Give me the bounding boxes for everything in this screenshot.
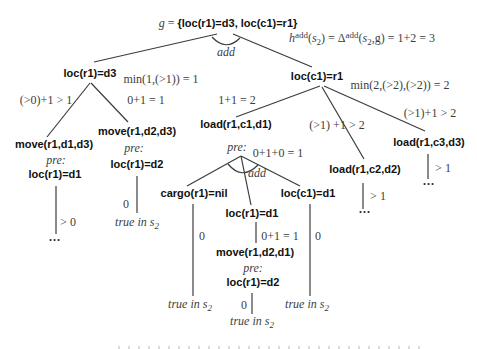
root-goal-node: g = {loc(r1)=d3, loc(c1)=r1}	[159, 14, 298, 31]
edge-cost-load-c2: (>1) +1 > 2	[309, 119, 364, 132]
and-arc-label-root: add	[217, 46, 235, 59]
pre-label-move-d1-d3: pre:	[46, 154, 66, 167]
node-load-r1-c3-d3: load(r1,c3,d3)	[393, 137, 465, 149]
edge-cost-load-c1: 1+1 = 2	[218, 94, 256, 107]
pre-label-load-c1: pre:	[227, 141, 247, 154]
node-load-r1-c2-d2: load(r1,c2,d2)	[329, 164, 401, 176]
edge-cost-move-d1-d3: (>0)+1 > 1	[20, 94, 72, 107]
ellipsis-left: ...	[49, 231, 61, 244]
pre-label-move-d2-d3: pre:	[124, 142, 144, 155]
edge-cost-load-c3: (>1)+1 > 2	[404, 107, 456, 120]
node-loc-r1-d1-left: loc(r1)=d1	[29, 169, 82, 181]
node-loc-c1-d1: loc(c1)=d1	[281, 188, 336, 200]
node-cargo-r1-nil: cargo(r1)=nil	[161, 188, 228, 200]
leaf-true-cargo: true in s2	[168, 298, 212, 313]
edge-cost-move-d2-d1: 0+1 = 1	[261, 230, 299, 243]
cost-zero-move-d2-d3: 0	[123, 198, 129, 211]
edge-locr1d3-to-move-d1-d3	[47, 83, 90, 137]
leaf-true-move-d2-d3: true in s2	[115, 216, 159, 231]
leaf-true-loc-c1-d1: true in s2	[285, 298, 329, 313]
pre-cost-load-c1: 0+1+0 = 1	[253, 147, 303, 160]
min-cost-loc-c1-r1: min(2,(>2),(>2)) = 2	[351, 79, 450, 92]
node-loc-r1-d2-mid: loc(r1)=d2	[111, 159, 164, 171]
node-loc-r1-d2-center: loc(r1)=d2	[227, 277, 280, 289]
edge-pre-to-locr1d1	[241, 156, 251, 205]
ellipsis-load-c3: ...	[423, 175, 435, 188]
min-cost-loc-r1-d3: min(1,(>1)) = 1	[123, 73, 198, 86]
node-load-r1-c1-d1: load(r1,c1,d1)	[200, 119, 272, 131]
ellipsis-load-c2: ...	[359, 203, 371, 216]
goal-set: {loc(r1)=d3, loc(c1)=r1}	[177, 17, 297, 29]
edge-locr1d3-to-move-d2-d3	[91, 83, 128, 122]
cost-zero-cargo: 0	[199, 230, 205, 243]
cost-zero-move-d2-d1: 0	[241, 299, 247, 312]
cost-gt1-load-c2: > 1	[370, 190, 386, 203]
edge-cost-move-d2-d3: 0+1 = 1	[127, 94, 165, 107]
hadd-formula: hadd(s2) = Δadd(s2,g) = 1+2 = 3	[289, 31, 435, 47]
node-loc-r1-d3: loc(r1)=d3	[64, 68, 117, 80]
cost-gt1-load-c3: > 1	[435, 162, 451, 175]
cost-gt0-left: > 0	[60, 216, 76, 229]
edge-pre-to-cargo	[187, 156, 241, 186]
hadd-heuristic-tree-diagram: g = {loc(r1)=d3, loc(c1)=r1} hadd(s2) = …	[0, 0, 477, 349]
node-loc-c1-r1: loc(c1)=r1	[291, 71, 343, 83]
pre-label-move-d2-d1: pre:	[243, 262, 263, 275]
node-loc-r1-d1-center: loc(r1)=d1	[226, 208, 279, 220]
node-move-r1-d2-d1: move(r1,d2,d1)	[216, 247, 294, 259]
and-arc-root	[212, 37, 240, 45]
leaf-true-move-d2-d1: true in s2	[230, 315, 274, 330]
node-move-r1-d1-d3: move(r1,d1,d3)	[15, 139, 93, 151]
edge-root-to-loc-r1-d3	[94, 34, 217, 62]
and-arc-label-pre: add	[248, 167, 266, 180]
node-move-r1-d2-d3: move(r1,d2,d3)	[98, 126, 176, 138]
cost-zero-loc-c1-d1: 0	[315, 230, 321, 243]
